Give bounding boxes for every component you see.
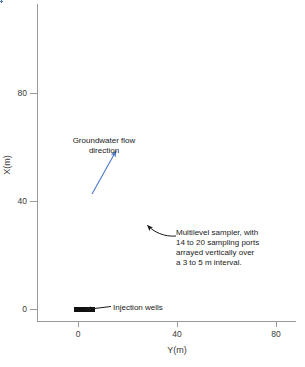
flow-line-2: direction (58, 146, 150, 156)
injection-wells-annotation: Injection wells (113, 303, 163, 313)
sampler-line-1: Multilevel sampler, with (176, 228, 302, 238)
multilevel-sampler-annotation: Multilevel sampler, with 14 to 20 sampli… (176, 228, 302, 268)
groundwater-flow-annotation: Groundwater flow direction (58, 136, 150, 156)
injection-well-marker (92, 309, 95, 312)
sampler-line-2: 14 to 20 sampling ports (176, 238, 302, 248)
sampler-line-4: a 3 to 5 m interval. (176, 258, 302, 268)
sampler-line-3: arrayed vertically over (176, 248, 302, 258)
flow-line-1: Groundwater flow (58, 136, 150, 146)
groundwater-well-layout-figure: 0 40 80 0 40 80 X(m) Y(m) Groundwater fl… (0, 0, 305, 367)
